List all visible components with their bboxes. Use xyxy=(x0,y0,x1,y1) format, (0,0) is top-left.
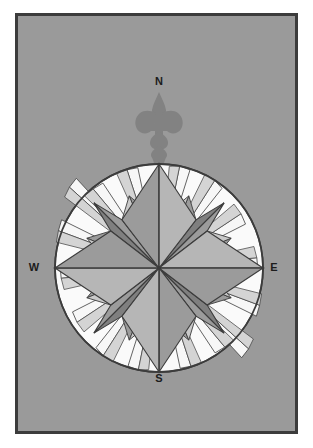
cardinal-label-south: S xyxy=(149,373,169,384)
fleur-de-lis-icon xyxy=(135,92,182,163)
cardinal-label-west: W xyxy=(24,262,44,273)
cardinal-label-east: E xyxy=(264,262,284,273)
cardinal-label-north: N xyxy=(149,76,169,87)
compass-rose-figure: N S W E xyxy=(0,0,313,448)
compass-center-point xyxy=(158,267,161,270)
